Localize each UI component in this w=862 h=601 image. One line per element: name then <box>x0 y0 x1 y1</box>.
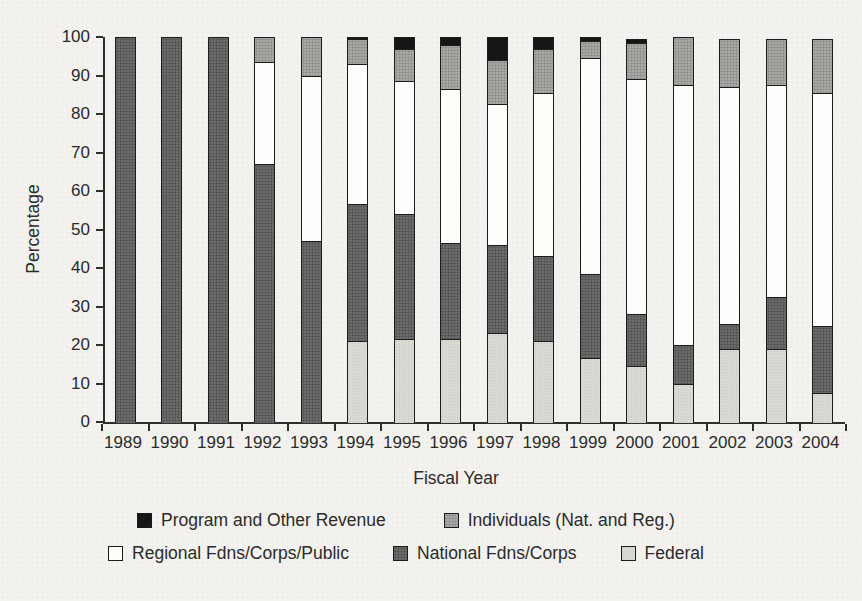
bar-2004 <box>812 39 833 422</box>
y-tick-label-10: 10 <box>46 375 90 393</box>
legend-item-federal: Federal <box>621 543 704 564</box>
y-tick-label-0: 0 <box>46 413 90 431</box>
legend-swatch-program-and-other-revenue <box>137 513 152 528</box>
x-tick-4 <box>287 424 289 431</box>
bar-1992-segment-regional-fdns-corps-public <box>255 63 274 165</box>
bar-1990 <box>161 37 182 422</box>
bar-1991-segment-national-fdns-corps <box>209 38 228 423</box>
y-axis-title: Percentage <box>23 184 44 274</box>
x-tick-7 <box>427 424 429 431</box>
bar-1991 <box>208 37 229 422</box>
bar-1998-segment-program-and-other-revenue <box>534 38 553 50</box>
bar-1998-segment-individuals-nat-and-reg <box>534 50 553 94</box>
legend-label-program-and-other-revenue: Program and Other Revenue <box>161 510 386 531</box>
x-tick-3 <box>241 424 243 431</box>
bar-1997 <box>487 37 508 422</box>
y-tick-30 <box>96 306 103 308</box>
bar-2001-segment-individuals-nat-and-reg <box>674 38 693 86</box>
legend-swatch-regional-fdns-corps-public <box>108 546 123 561</box>
y-tick-label-40: 40 <box>46 259 90 277</box>
bar-2002-segment-regional-fdns-corps-public <box>720 88 739 325</box>
bar-1994-segment-federal <box>348 342 367 423</box>
bar-2003-segment-regional-fdns-corps-public <box>767 86 786 298</box>
x-tick-11 <box>613 424 615 431</box>
bar-2001-segment-federal <box>674 385 693 424</box>
bar-1998-segment-national-fdns-corps <box>534 257 553 342</box>
bar-2002-segment-federal <box>720 350 739 423</box>
bar-2003-segment-federal <box>767 350 786 423</box>
bar-1993-segment-individuals-nat-and-reg <box>302 38 321 77</box>
bar-1989-segment-national-fdns-corps <box>116 38 135 423</box>
bar-1994-segment-individuals-nat-and-reg <box>348 40 367 65</box>
legend-swatch-national-fdns-corps <box>393 546 408 561</box>
x-tick-label-1998: 1998 <box>518 433 566 453</box>
bar-2000-segment-federal <box>627 367 646 423</box>
bar-2002 <box>719 39 740 422</box>
bar-1997-segment-national-fdns-corps <box>488 246 507 335</box>
bar-2003-segment-individuals-nat-and-reg <box>767 40 786 86</box>
bar-2001 <box>673 37 694 422</box>
bar-1996-segment-individuals-nat-and-reg <box>441 46 460 90</box>
bar-2001-segment-national-fdns-corps <box>674 346 693 385</box>
legend-label-individuals-nat-and-reg: Individuals (Nat. and Reg.) <box>468 510 675 531</box>
bar-1996-segment-federal <box>441 340 460 423</box>
bar-1993 <box>301 37 322 422</box>
bar-1997-segment-program-and-other-revenue <box>488 38 507 61</box>
bar-2004-segment-individuals-nat-and-reg <box>813 40 832 94</box>
y-tick-label-20: 20 <box>46 336 90 354</box>
x-tick-6 <box>380 424 382 431</box>
x-tick-8 <box>473 424 475 431</box>
bar-2004-segment-federal <box>813 394 832 423</box>
bar-1996-segment-program-and-other-revenue <box>441 38 460 46</box>
x-tick-label-1997: 1997 <box>471 433 519 453</box>
y-tick-0 <box>96 421 103 423</box>
bar-1990-segment-national-fdns-corps <box>162 38 181 423</box>
bar-1998-segment-regional-fdns-corps-public <box>534 94 553 258</box>
bar-1994-segment-national-fdns-corps <box>348 205 367 342</box>
y-tick-20 <box>96 344 103 346</box>
bar-2000 <box>626 39 647 422</box>
bar-1999-segment-federal <box>581 359 600 423</box>
x-tick-label-1999: 1999 <box>564 433 612 453</box>
legend-swatch-individuals-nat-and-reg <box>444 513 459 528</box>
legend-item-national-fdns-corps: National Fdns/Corps <box>393 543 577 564</box>
y-tick-10 <box>96 383 103 385</box>
legend-row-1: Program and Other RevenueIndividuals (Na… <box>0 510 837 531</box>
legend-label-regional-fdns-corps-public: Regional Fdns/Corps/Public <box>132 543 349 564</box>
x-axis-title: Fiscal Year <box>413 468 499 489</box>
y-tick-60 <box>96 190 103 192</box>
bar-1992-segment-national-fdns-corps <box>255 165 274 423</box>
bar-1994-segment-regional-fdns-corps-public <box>348 65 367 206</box>
bar-2000-segment-national-fdns-corps <box>627 315 646 367</box>
bar-1992 <box>254 37 275 422</box>
y-tick-label-70: 70 <box>46 144 90 162</box>
x-tick-label-1990: 1990 <box>146 433 194 453</box>
bar-1997-segment-federal <box>488 334 507 423</box>
x-tick-label-2004: 2004 <box>797 433 845 453</box>
x-tick-15 <box>799 424 801 431</box>
bar-1996-segment-regional-fdns-corps-public <box>441 90 460 244</box>
bar-1996-segment-national-fdns-corps <box>441 244 460 340</box>
x-tick-16 <box>845 424 847 431</box>
bar-1995-segment-individuals-nat-and-reg <box>395 50 414 83</box>
bar-1989 <box>115 37 136 422</box>
y-tick-100 <box>96 36 103 38</box>
x-tick-label-2002: 2002 <box>704 433 752 453</box>
bar-2002-segment-individuals-nat-and-reg <box>720 40 739 88</box>
bar-1996 <box>440 37 461 422</box>
x-tick-label-1989: 1989 <box>99 433 147 453</box>
bar-1995-segment-regional-fdns-corps-public <box>395 82 414 215</box>
bar-1994 <box>347 37 368 422</box>
legend-row-2: Regional Fdns/Corps/PublicNational Fdns/… <box>0 543 837 564</box>
y-tick-label-30: 30 <box>46 298 90 316</box>
bar-1999 <box>580 37 601 422</box>
x-tick-label-1991: 1991 <box>192 433 240 453</box>
bar-1997-segment-individuals-nat-and-reg <box>488 61 507 105</box>
bar-1999-segment-individuals-nat-and-reg <box>581 42 600 59</box>
y-tick-label-90: 90 <box>46 67 90 85</box>
chart-figure: Percentage Fiscal Year Program and Other… <box>0 0 862 601</box>
y-tick-40 <box>96 267 103 269</box>
y-tick-label-80: 80 <box>46 105 90 123</box>
bar-1999-segment-national-fdns-corps <box>581 275 600 360</box>
x-tick-label-1995: 1995 <box>378 433 426 453</box>
